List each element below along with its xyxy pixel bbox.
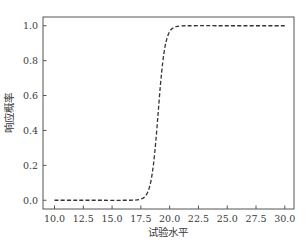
x-tick-label: 12.5 <box>73 213 94 224</box>
chart-container: 10.012.515.017.520.022.525.027.530.0 0.0… <box>0 0 306 246</box>
y-tick-label: 0.2 <box>23 160 38 171</box>
x-tick-label: 17.5 <box>130 213 151 224</box>
y-axis-label: 响应概率 <box>3 93 15 133</box>
x-axis-label: 试验水平 <box>148 226 188 238</box>
data-series <box>55 26 285 201</box>
x-axis-ticks: 10.012.515.017.520.022.525.027.530.0 <box>44 206 295 225</box>
y-tick-label: 1.0 <box>23 20 38 31</box>
y-tick-label: 0.4 <box>23 125 38 136</box>
x-tick-label: 22.5 <box>188 213 209 224</box>
response-curve-line <box>55 26 285 201</box>
x-tick-label: 20.0 <box>159 213 180 224</box>
y-tick-label: 0.6 <box>23 90 38 101</box>
axes-box <box>43 17 294 209</box>
y-tick-label: 0.8 <box>23 55 38 66</box>
x-tick-label: 10.0 <box>44 213 65 224</box>
x-tick-label: 15.0 <box>102 213 123 224</box>
x-tick-label: 27.5 <box>245 213 266 224</box>
plot-frame <box>43 17 294 209</box>
response-probability-chart: 10.012.515.017.520.022.525.027.530.0 0.0… <box>0 0 306 246</box>
y-tick-label: 0.0 <box>23 195 38 206</box>
x-tick-label: 30.0 <box>274 213 295 224</box>
x-tick-label: 25.0 <box>217 213 238 224</box>
